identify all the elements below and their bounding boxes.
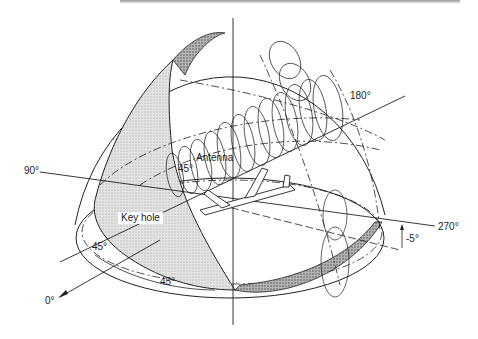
- diagram-canvas: 180° 90° 270° 0° Antenna Key hole 45° 45…: [0, 0, 478, 339]
- aircraft-icon: [200, 168, 295, 215]
- top-dark-band: [173, 32, 225, 75]
- label-key-hole: Key hole: [118, 212, 163, 224]
- label-90-deg: 90°: [24, 166, 39, 176]
- label-45-left: 45°: [92, 242, 107, 252]
- label-antenna: Antenna: [196, 153, 233, 163]
- label-45-antenna: 45°: [178, 164, 193, 174]
- label-45-bottom: 45°: [160, 277, 175, 287]
- label-270-deg: 270°: [438, 222, 459, 232]
- keyhole-region: [94, 60, 235, 290]
- label-0-deg: 0°: [45, 296, 55, 306]
- hemisphere-diagram: [0, 0, 478, 339]
- label-180-deg: 180°: [350, 91, 371, 101]
- label-minus5-deg: -5°: [406, 234, 419, 244]
